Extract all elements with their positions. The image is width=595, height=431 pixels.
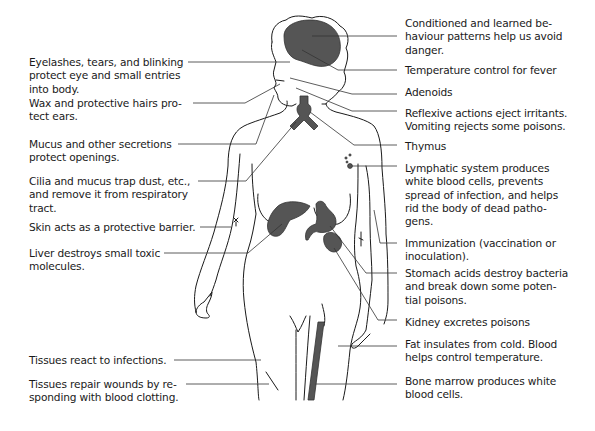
label-adenoids: Adenoids [405,86,453,99]
label-eyelashes: Eyelashes, tears, and blinking protect e… [29,56,183,96]
label-skin: Skin acts as a protective barrier. [29,221,195,234]
label-thymus: Thymus [405,140,446,153]
lymph-node [348,164,353,169]
label-liver: Liver destroys small toxic molecules. [29,247,160,274]
label-stomach: Stomach acids destroy bacteria and break… [405,267,568,307]
label-wax: Wax and protective hairs pro- tect ears. [29,97,182,124]
leader-wax [193,84,280,103]
label-fat: Fat insulates from cold. Blood helps con… [405,338,557,365]
skin-mark-left [234,218,238,226]
label-lymphatic: Lymphatic system produces white blood ce… [405,162,558,228]
kidney [324,232,342,252]
label-cilia: Cilia and mucus trap dust, etc., and rem… [29,175,190,215]
bone-marrow [308,322,324,400]
label-tissues-react: Tissues react to infections. [29,354,166,367]
body-defences-diagram: Eyelashes, tears, and blinking protect e… [0,0,595,431]
knee-left [266,372,278,390]
label-tissues-repair: Tissues repair wounds by re- sponding wi… [29,378,178,405]
torso-left [243,164,259,400]
crotch [290,316,306,332]
skin-mark-right [359,232,363,246]
label-mucus: Mucus and other secretions protect openi… [29,138,172,165]
thymus-windpipe [290,96,318,130]
mouth [276,80,284,81]
leader-cilia [198,122,296,181]
label-immunization: Immunization (vaccination or inoculation… [405,237,556,264]
label-conditioned: Conditioned and learned be- haviour patt… [405,17,562,57]
leg-inner-right [304,316,310,400]
brain [284,20,340,66]
torso-right [343,164,361,400]
label-bone-marrow: Bone marrow produces white blood cells. [405,375,556,402]
label-kidney: Kidney excretes poisons [405,316,530,329]
neck-left [195,101,288,312]
label-temperature: Temperature control for fever [405,64,557,77]
label-reflexive: Reflexive actions eject irritants. Vomit… [405,107,567,134]
